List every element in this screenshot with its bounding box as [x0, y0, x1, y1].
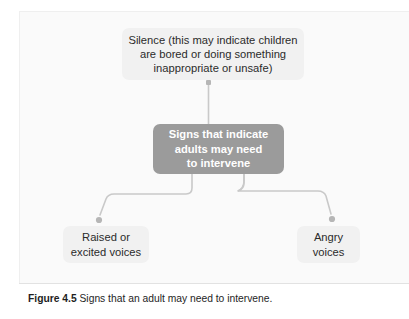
figure-caption: Figure 4.5 Signs that an adult may need …	[28, 292, 398, 306]
figure-caption-text: Signs that an adult may need to interven…	[77, 293, 273, 304]
node-raised-or-excited-voices: Raised or excited voices	[63, 226, 149, 263]
node-raised-or-excited-voices-label: Raised or excited voices	[63, 230, 149, 258]
figure-container: Silence (this may indicate children are …	[0, 0, 409, 319]
node-angry-voices-label: Angry voices	[297, 230, 360, 258]
caption-divider	[19, 283, 409, 284]
node-angry-voices: Angry voices	[297, 226, 360, 263]
node-silence: Silence (this may indicate children are …	[122, 28, 304, 80]
node-signs-indicate: Signs that indicate adults may need to i…	[153, 124, 284, 174]
node-signs-indicate-label: Signs that indicate adults may need to i…	[153, 127, 284, 171]
figure-caption-label: Figure 4.5	[28, 293, 77, 304]
left-margin-strip	[0, 0, 19, 319]
node-silence-label: Silence (this may indicate children are …	[122, 33, 304, 76]
